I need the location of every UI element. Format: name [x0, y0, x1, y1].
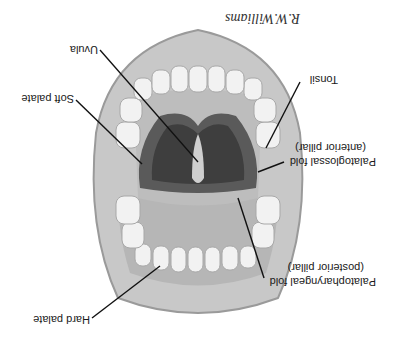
label-hard-palate: Hard palate	[33, 314, 90, 326]
label-palatoglossal-fold: Palatoglossal fold	[290, 156, 376, 168]
label-soft-palate: Soft palate	[21, 93, 74, 105]
label-palatopharyngeal-sub: (posterior pillar)	[288, 262, 364, 274]
label-tonsil: Tonsil	[310, 74, 338, 86]
label-palatoglossal-sub: (anterior pillar)	[295, 142, 366, 154]
label-uvula: Uvula	[70, 44, 98, 56]
label-palatopharyngeal-fold: Palatopharyngeal fold	[270, 276, 376, 288]
artist-signature: R.W.Williams	[225, 10, 300, 26]
mouth-illustration	[0, 0, 396, 348]
mouth-diagram: R.W.Williams Uvula Tonsil Soft palate Pa…	[0, 0, 396, 348]
